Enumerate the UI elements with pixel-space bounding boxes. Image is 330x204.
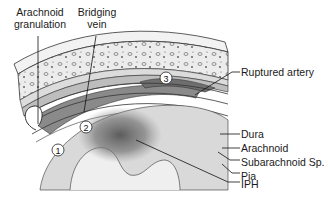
marker-1: 1	[52, 144, 64, 156]
svg-text:2: 2	[83, 123, 88, 133]
label-arachnoid-granulation-line1: Arachnoid	[10, 6, 70, 18]
label-subarachnoid-space: Subarachnoid Sp.	[241, 156, 324, 168]
label-ruptured-artery: Ruptured artery	[241, 66, 314, 78]
label-arachnoid-granulation-line2: granulation	[10, 18, 70, 30]
label-bridging-vein-line1: Bridging	[72, 6, 122, 18]
svg-text:1: 1	[55, 146, 60, 156]
svg-text:3: 3	[163, 74, 168, 84]
marker-2: 2	[80, 121, 92, 133]
label-dura: Dura	[241, 128, 264, 140]
label-bridging-vein-line2: vein	[72, 18, 122, 30]
label-arachnoid: Arachnoid	[241, 142, 288, 154]
anatomy-illustration: 1 2 3	[0, 0, 330, 204]
intraparenchymal-hemorrhage	[78, 107, 162, 163]
label-iph: IPH	[241, 178, 259, 190]
label-arachnoid-granulation: Arachnoid granulation	[10, 6, 70, 30]
meningeal-layers-diagram: 1 2 3 Arachnoid granulation Bridging vei…	[0, 0, 330, 204]
marker-3: 3	[160, 72, 172, 84]
label-bridging-vein: Bridging vein	[72, 6, 122, 30]
